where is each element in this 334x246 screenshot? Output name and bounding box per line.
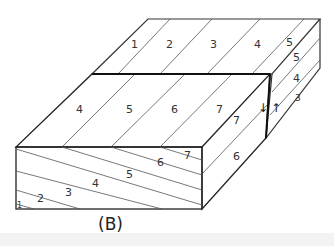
stratum-label: 6: [233, 150, 240, 163]
stratum-label: 4: [76, 103, 83, 116]
stratum-label: 4: [293, 72, 300, 85]
stratum-label: 2: [37, 192, 44, 205]
stratum-label: 2: [166, 38, 173, 51]
stratum-label: 6: [171, 103, 178, 116]
stratum-label: 5: [126, 103, 133, 116]
block-diagram: 1 2 3 4 5 5 4 3 4 5 6 7 7 6 1 2 3 4 5 6 …: [0, 0, 334, 246]
stratum-label: 5: [293, 51, 300, 64]
stratum-label: 7: [233, 114, 240, 127]
stratum-label: 6: [157, 156, 164, 169]
fault-up-arrow-icon: ↑: [271, 101, 281, 115]
stratum-label: 7: [184, 149, 191, 162]
stratum-label: 5: [126, 168, 133, 181]
stratum-label: 4: [254, 38, 261, 51]
fault-down-arrow-icon: ↓: [258, 101, 268, 115]
stratum-label: 3: [210, 38, 217, 51]
stratum-label: 3: [295, 93, 301, 103]
stratum-label: 4: [92, 177, 99, 190]
stratum-label: 5: [286, 36, 293, 49]
stratum-label: 7: [216, 103, 223, 116]
figure-caption: (B): [98, 214, 123, 234]
stratum-label: 1: [131, 38, 138, 51]
stratum-label: 1: [17, 201, 22, 210]
stratum-label: 3: [65, 186, 72, 199]
